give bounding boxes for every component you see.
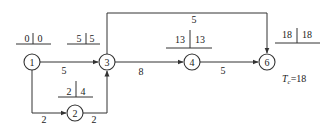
svg-text:18: 18 <box>302 29 312 40</box>
time-box-node-3: 5 5 <box>67 33 100 44</box>
node-4: 4 <box>184 54 200 70</box>
edge-2-3-duration: 2 <box>92 114 97 125</box>
total-time-label: Tc=18 <box>282 73 306 86</box>
svg-text:13: 13 <box>175 34 185 45</box>
svg-text:5: 5 <box>90 33 95 44</box>
svg-text:3: 3 <box>105 57 110 68</box>
time-box-node-6: 18 18 <box>275 28 320 43</box>
edge-1-2-duration: 2 <box>42 114 47 125</box>
svg-text:1: 1 <box>30 57 35 68</box>
svg-text:4: 4 <box>190 57 195 68</box>
time-box-node-2: 2 4 <box>58 81 93 97</box>
edge-2-3 <box>83 71 107 113</box>
edge-4-6-duration: 5 <box>221 65 226 76</box>
svg-text:5: 5 <box>77 33 82 44</box>
time-box-node-4: 13 13 <box>166 30 212 48</box>
svg-text:13: 13 <box>195 34 205 45</box>
time-box-node-1: 0 0 <box>16 33 51 44</box>
node-3: 3 <box>99 54 115 70</box>
svg-text:2: 2 <box>73 108 78 119</box>
edge-1-3-duration: 5 <box>62 65 67 76</box>
svg-text:4: 4 <box>81 86 86 97</box>
edge-1-2 <box>32 70 66 113</box>
node-6: 6 <box>259 54 275 70</box>
node-1: 1 <box>24 54 40 70</box>
svg-text:18: 18 <box>282 29 292 40</box>
svg-text:0: 0 <box>38 33 43 44</box>
svg-text:0: 0 <box>25 33 30 44</box>
svg-text:6: 6 <box>265 57 270 68</box>
node-2: 2 <box>67 105 83 121</box>
edge-3-6-duration: 5 <box>192 14 197 25</box>
edge-3-4-duration: 8 <box>139 66 144 77</box>
svg-text:2: 2 <box>67 86 72 97</box>
network-diagram: 5 2 2 8 5 5 0 0 5 5 2 4 13 13 18 18 1 <box>0 0 331 131</box>
